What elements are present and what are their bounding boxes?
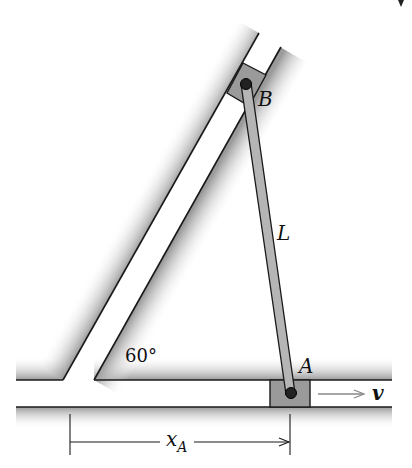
label-b: B [257,87,273,111]
pin-a [286,388,297,399]
label-xa-main: x [166,427,177,451]
velocity-arrow [318,390,364,398]
label-xa: xA [166,427,187,455]
label-l: L [276,221,290,245]
pin-b [241,79,252,90]
label-a: A [297,354,313,378]
label-xa-sub: A [175,439,187,455]
corner-mark [398,0,404,7]
mechanism-diagram: B L 60° A v xA [0,0,412,468]
label-v: v [372,381,384,405]
ground-shading [16,356,392,429]
incline-outer-edge [63,33,259,380]
label-angle: 60° [125,345,157,366]
